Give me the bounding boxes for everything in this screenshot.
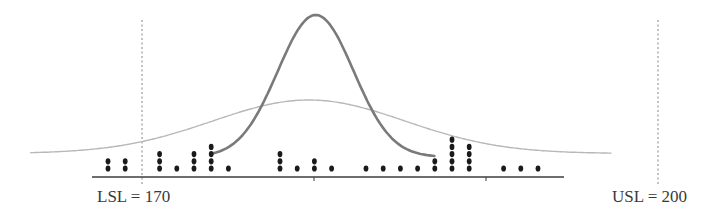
- data-dot: [295, 165, 300, 171]
- data-dot: [157, 158, 162, 164]
- data-dot: [364, 165, 369, 171]
- data-dot: [381, 165, 386, 171]
- data-dot: [209, 165, 214, 171]
- usl-label: USL = 200: [612, 187, 687, 207]
- data-dot: [192, 165, 197, 171]
- data-dot: [157, 151, 162, 157]
- data-dot: [518, 165, 523, 171]
- data-dot: [106, 165, 111, 171]
- narrow-distribution-curve: [211, 15, 435, 156]
- data-dot: [226, 165, 231, 171]
- data-dot: [467, 151, 472, 157]
- data-dot: [174, 165, 179, 171]
- data-dot: [209, 151, 214, 157]
- data-dot: [123, 165, 128, 171]
- data-dot: [192, 151, 197, 157]
- data-dot: [450, 151, 455, 157]
- data-dot: [278, 165, 283, 171]
- data-dot: [209, 158, 214, 164]
- lsl-label: LSL = 170: [97, 187, 170, 207]
- data-dot: [450, 144, 455, 150]
- data-dot: [106, 158, 111, 164]
- data-dot: [312, 158, 317, 164]
- data-dot: [157, 165, 162, 171]
- data-dot: [209, 144, 214, 150]
- data-dot: [467, 144, 472, 150]
- narrow-curve-path: [211, 15, 435, 156]
- data-dot: [501, 165, 506, 171]
- data-dot: [450, 165, 455, 171]
- data-dot: [450, 158, 455, 164]
- data-dot: [450, 137, 455, 143]
- data-dot: [467, 158, 472, 164]
- wide-distribution-curve: [30, 100, 611, 153]
- data-dot: [398, 165, 403, 171]
- data-dot: [123, 158, 128, 164]
- data-dot: [415, 165, 420, 171]
- data-dot: [278, 151, 283, 157]
- data-dot: [312, 165, 317, 171]
- data-dot: [432, 165, 437, 171]
- data-dot: [432, 158, 437, 164]
- wide-curve-path: [30, 100, 611, 153]
- data-dot: [329, 165, 334, 171]
- data-dot: [536, 165, 541, 171]
- data-dot: [278, 158, 283, 164]
- x-axis: [92, 177, 564, 181]
- data-dot: [192, 158, 197, 164]
- data-dot: [467, 165, 472, 171]
